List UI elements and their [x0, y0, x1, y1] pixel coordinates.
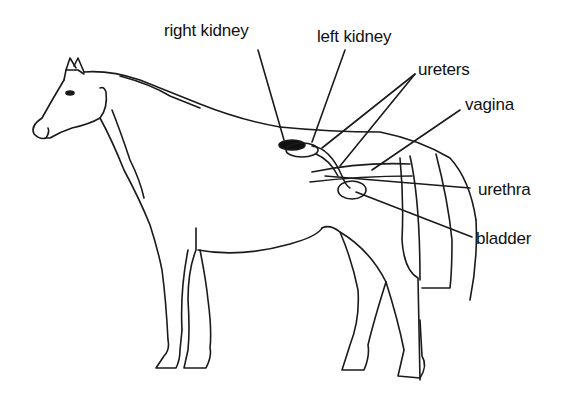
- horse-urinary-diagram: right kidney left kidney ureters vagina …: [0, 0, 577, 393]
- bladder-shape: [338, 181, 366, 199]
- horse-tail: [400, 154, 452, 380]
- horse-front: [100, 110, 211, 368]
- horse-head: [33, 58, 106, 139]
- label-ureters: ureters: [418, 61, 470, 78]
- horse-hind: [322, 220, 476, 378]
- horse-belly: [198, 228, 322, 253]
- label-bladder: bladder: [476, 230, 531, 247]
- urinary-organs: [279, 140, 412, 199]
- label-left-kidney: left kidney: [317, 28, 391, 45]
- label-vagina: vagina: [465, 96, 514, 113]
- label-urethra: urethra: [478, 181, 530, 198]
- label-right-kidney: right kidney: [164, 22, 249, 39]
